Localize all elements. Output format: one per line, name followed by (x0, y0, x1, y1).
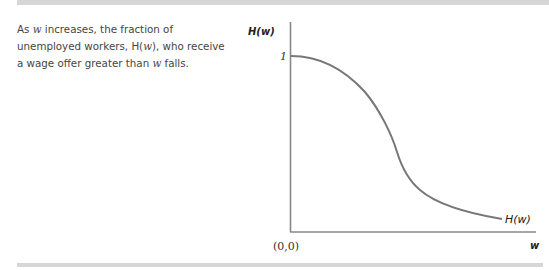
y-axis-label: H(w) (248, 26, 275, 37)
curve-label: H(w) (505, 213, 531, 226)
chart: H(w) 1 (0,0) w H(w) (0, 0, 549, 270)
origin-label: (0,0) (273, 240, 299, 253)
y-tick-label: 1 (280, 50, 287, 63)
h-of-w-curve (291, 56, 502, 219)
x-axis-label: w (530, 240, 540, 251)
bottom-divider (17, 263, 543, 267)
